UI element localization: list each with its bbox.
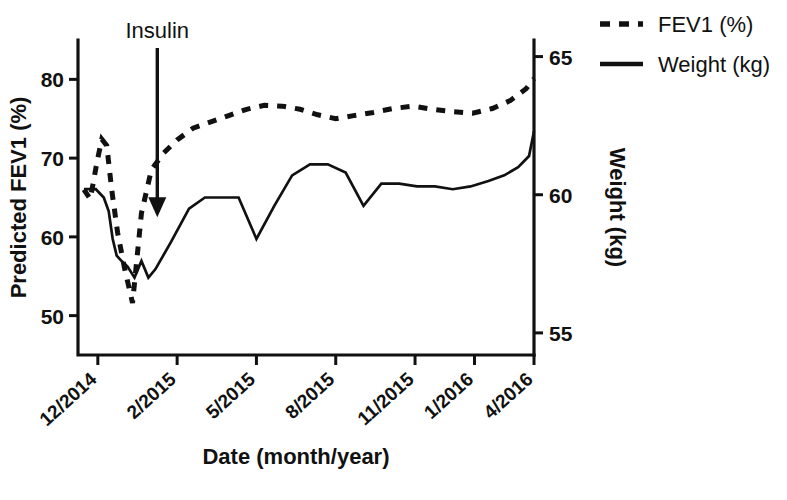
- figure-container: 5060708055606512/20142/20155/20158/20151…: [0, 0, 787, 500]
- y-axis-tick-label: 60: [41, 226, 64, 249]
- series-group: [84, 79, 534, 303]
- x-axis-tick-label: 11/2015: [353, 368, 418, 429]
- series-line-fev1: [84, 79, 534, 303]
- y2-axis-tick-label: 55: [549, 322, 573, 345]
- y2-axis-tick-label: 60: [549, 184, 572, 207]
- annotation-group: Insulin: [126, 18, 190, 217]
- x-axis-tick-label: 2/2015: [123, 368, 181, 423]
- chart-canvas: 5060708055606512/20142/20155/20158/20151…: [0, 0, 787, 500]
- legend-label: FEV1 (%): [658, 12, 753, 37]
- x-axis-tick-label: 8/2015: [281, 368, 339, 423]
- y-axis-tick-label: 70: [41, 147, 64, 170]
- tick-group: 5060708055606512/20142/20155/20158/20151…: [35, 46, 572, 430]
- x-axis-tick-label: 5/2015: [202, 368, 260, 423]
- insulin-arrow-head: [148, 197, 166, 217]
- legend-label: Weight (kg): [658, 52, 770, 77]
- y-axis-title: Predicted FEV1 (%): [6, 97, 31, 299]
- x-axis-tick-label: 12/2014: [35, 368, 100, 430]
- y-axis-tick-label: 50: [41, 305, 64, 328]
- legend-group: FEV1 (%)Weight (kg): [600, 12, 770, 77]
- y-axis-tick-label: 80: [41, 68, 64, 91]
- y2-axis-tick-label: 65: [549, 46, 573, 69]
- insulin-annotation-label: Insulin: [126, 18, 190, 43]
- x-axis-tick-label: 1/2016: [420, 368, 477, 422]
- series-line-weight: [84, 131, 534, 277]
- y2-axis-title: Weight (kg): [605, 148, 630, 267]
- x-axis-title: Date (month/year): [202, 444, 389, 469]
- x-axis-tick-label: 4/2016: [479, 368, 536, 422]
